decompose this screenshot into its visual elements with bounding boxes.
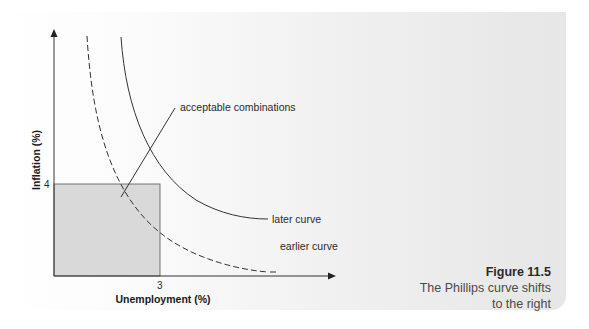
annotation-acceptable-combinations: acceptable combinations bbox=[180, 101, 296, 113]
x-axis-arrow-icon bbox=[328, 273, 336, 280]
figure-description: The Phillips curve shifts to the right bbox=[411, 280, 551, 312]
x-axis-title: Unemployment (%) bbox=[115, 293, 210, 305]
label-earlier-curve: earlier curve bbox=[280, 240, 338, 252]
y-tick-4: 4 bbox=[44, 179, 50, 190]
y-axis-arrow-icon bbox=[51, 29, 58, 37]
label-later-curve: later curve bbox=[272, 213, 321, 225]
figure-caption: Figure 11.5 The Phillips curve shifts to… bbox=[411, 264, 551, 312]
y-axis-title: Inflation (%) bbox=[30, 130, 42, 190]
figure-number: Figure 11.5 bbox=[411, 264, 551, 280]
acceptable-region bbox=[54, 184, 160, 276]
x-tick-3: 3 bbox=[157, 280, 163, 291]
